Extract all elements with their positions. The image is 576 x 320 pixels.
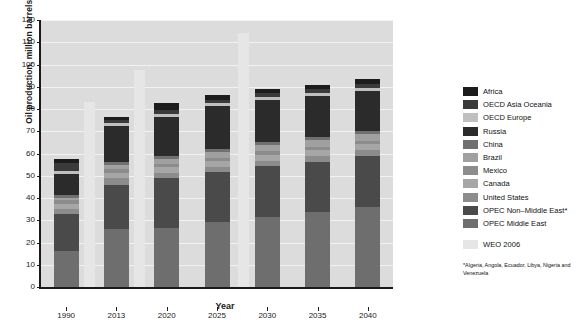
- bar-segment: [104, 117, 129, 120]
- x-tick-label: 2035: [309, 311, 327, 320]
- legend-item[interactable]: Brazil: [463, 151, 573, 164]
- bar-segment: [305, 212, 330, 287]
- weo-overlay-bar: [84, 102, 95, 287]
- bar-segment: [205, 100, 230, 104]
- bar-segment: [205, 103, 230, 106]
- legend-label: OECD Europe: [483, 113, 532, 122]
- y-tick-label: 70: [26, 126, 35, 135]
- legend-label: Brazil: [483, 153, 502, 162]
- legend-label: WEO 2006: [483, 240, 520, 249]
- y-tick-label: 120: [22, 15, 35, 24]
- y-tick-label: 90: [26, 82, 35, 91]
- bar-stack: [54, 159, 79, 287]
- legend-item[interactable]: OECD Europe: [463, 111, 573, 124]
- bar-segment: [205, 152, 230, 158]
- gridline: [41, 42, 393, 43]
- bar-segment: [154, 178, 179, 227]
- bar-segment: [154, 167, 179, 172]
- bar-segment: [205, 149, 230, 152]
- bar-segment: [205, 167, 230, 172]
- x-tick-label: 2025: [208, 311, 226, 320]
- weo-overlay-bar: [238, 33, 249, 287]
- legend-swatch: [463, 100, 478, 109]
- legend-swatch: [463, 193, 478, 202]
- bar-segment: [255, 155, 280, 161]
- bar-stack: [255, 89, 280, 287]
- legend-swatch: [463, 240, 478, 249]
- bar-segment: [355, 144, 380, 150]
- bar-segment: [305, 96, 330, 137]
- y-tick-mark: [37, 243, 41, 244]
- bar-stack: [205, 95, 230, 287]
- x-tick-label: 2013: [108, 311, 126, 320]
- legend-label: United States: [483, 193, 529, 202]
- gridline: [41, 65, 393, 66]
- y-tick-label: 50: [26, 171, 35, 180]
- bar-segment: [255, 151, 280, 155]
- x-tick-label: 2040: [359, 311, 377, 320]
- legend-swatch: [463, 113, 478, 122]
- bar-segment: [104, 123, 129, 126]
- bar-segment: [205, 158, 230, 162]
- bar-segment: [54, 251, 79, 287]
- bar-segment: [54, 204, 79, 208]
- y-tick-mark: [37, 265, 41, 266]
- bar-segment: [355, 131, 380, 134]
- plot-area: 0102030405060708090100110120199020132020…: [39, 20, 393, 289]
- y-tick-mark: [37, 20, 41, 21]
- legend-item[interactable]: China: [463, 138, 573, 151]
- legend-item[interactable]: Africa: [463, 85, 573, 98]
- legend-label: Canada: [483, 179, 510, 188]
- y-tick-label: 80: [26, 104, 35, 113]
- bar-segment: [104, 178, 129, 185]
- legend-item[interactable]: Canada: [463, 177, 573, 190]
- legend-item[interactable]: United States: [463, 191, 573, 204]
- y-tick-mark: [37, 131, 41, 132]
- bar-segment: [355, 150, 380, 156]
- legend-item[interactable]: Russia: [463, 125, 573, 138]
- y-tick-label: 30: [26, 215, 35, 224]
- bar-segment: [255, 166, 280, 216]
- bar-segment: [255, 217, 280, 287]
- legend-spacer: [463, 230, 573, 238]
- y-tick-mark: [37, 220, 41, 221]
- bar-segment: [305, 137, 330, 140]
- legend-swatch: [463, 153, 478, 162]
- bar-segment: [154, 103, 179, 110]
- bar-segment: [355, 156, 380, 207]
- legend-swatch: [463, 179, 478, 188]
- bar-segment: [104, 165, 129, 169]
- bar-segment: [305, 147, 330, 150]
- bar-segment: [355, 88, 380, 91]
- bar-segment: [154, 110, 179, 114]
- y-tick-mark: [37, 154, 41, 155]
- bar-segment: [255, 89, 280, 94]
- oil-production-chart: Oil production, million barrels/day 0102…: [0, 0, 576, 320]
- y-tick-mark: [37, 87, 41, 88]
- bar-segment: [255, 100, 280, 142]
- legend-item-weo[interactable]: WEO 2006: [463, 238, 573, 251]
- y-tick-label: 0: [31, 282, 35, 291]
- legend: AfricaOECD Asia OceaniaOECD EuropeRussia…: [463, 85, 573, 251]
- bar-segment: [205, 106, 230, 148]
- legend-item[interactable]: OPEC Middle East: [463, 217, 573, 230]
- bar-segment: [355, 141, 380, 144]
- bar-segment: [355, 207, 380, 287]
- legend-item[interactable]: OECD Asia Oceania: [463, 98, 573, 111]
- legend-item[interactable]: Mexico: [463, 164, 573, 177]
- bar-segment: [205, 172, 230, 222]
- bar-segment: [205, 222, 230, 287]
- bar-segment: [154, 228, 179, 287]
- legend-item[interactable]: OPEC Non–Middle East*: [463, 204, 573, 217]
- bar-segment: [104, 120, 129, 123]
- y-tick-label: 10: [26, 260, 35, 269]
- legend-label: OECD Asia Oceania: [483, 100, 552, 109]
- legend-swatch: [463, 206, 478, 215]
- bar-segment: [305, 162, 330, 213]
- bar-segment: [104, 169, 129, 173]
- bar-segment: [255, 93, 280, 97]
- legend-label: Africa: [483, 87, 502, 96]
- bar-segment: [54, 159, 79, 163]
- bar-segment: [54, 198, 79, 200]
- bar-segment: [255, 97, 280, 100]
